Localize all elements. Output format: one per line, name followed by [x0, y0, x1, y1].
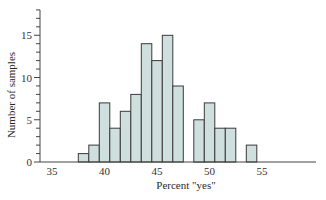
histogram-chart: 051015 3540455055 Percent "yes" Number o… — [0, 0, 326, 200]
histogram-bar — [246, 145, 256, 162]
y-axis-label: Number of samples — [5, 52, 17, 138]
histogram-bar — [225, 128, 236, 162]
y-axis: 051015 — [21, 10, 40, 168]
x-tick-label: 45 — [152, 165, 164, 177]
histogram-bar — [141, 44, 152, 162]
y-tick-label: 10 — [21, 72, 33, 84]
x-tick-label: 50 — [204, 165, 216, 177]
y-tick-label: 15 — [21, 29, 33, 41]
x-axis: 3540455055 — [40, 162, 316, 177]
histogram-bar — [120, 111, 131, 162]
histogram-bar — [78, 154, 89, 162]
x-tick-label: 40 — [99, 165, 111, 177]
histogram-bar — [99, 103, 110, 162]
histogram-bars — [78, 35, 256, 162]
y-tick-label: 0 — [27, 156, 33, 168]
x-tick-label: 35 — [47, 165, 59, 177]
histogram-bar — [204, 103, 215, 162]
histogram-bar — [131, 94, 142, 162]
histogram-bar — [173, 86, 184, 162]
histogram-bar — [194, 120, 205, 162]
x-axis-label: Percent "yes" — [156, 179, 215, 191]
histogram-bar — [162, 35, 173, 162]
x-tick-label: 55 — [257, 165, 269, 177]
histogram-bar — [152, 61, 163, 162]
y-tick-label: 5 — [27, 114, 33, 126]
histogram-bar — [110, 128, 121, 162]
histogram-bar — [215, 128, 226, 162]
histogram-bar — [89, 145, 100, 162]
